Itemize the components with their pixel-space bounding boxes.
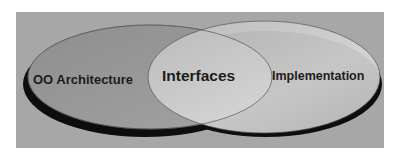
intersection-label: Interfaces	[162, 67, 235, 84]
venn-diagram: OO Architecture Interfaces Implementatio…	[0, 0, 399, 152]
right-set-label: Implementation	[272, 69, 364, 83]
left-set-label: OO Architecture	[33, 72, 133, 87]
